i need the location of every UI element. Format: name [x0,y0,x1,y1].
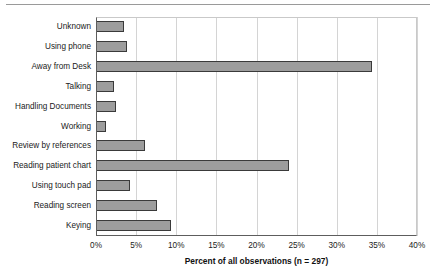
bar-keying [96,220,171,231]
x-axis-title: Percent of all observations (n = 297) [96,256,417,266]
plot-area [96,17,417,236]
bar-reading-screen [96,200,157,211]
xtick-label-0: 0% [90,240,102,251]
bar-away-from-desk [96,61,372,72]
category-label-unknown: Unknown [57,20,91,34]
xtick-label-25: 25% [288,240,304,251]
xtick-label-20: 20% [248,240,264,251]
bar-row [96,17,417,37]
bar-handling-documents [96,101,116,112]
category-label-using-phone: Using phone [45,40,91,54]
xtick-label-35: 35% [369,240,385,251]
bar-row [96,37,417,57]
xtick-label-5: 5% [130,240,142,251]
xtick-label-30: 30% [329,240,345,251]
bar-using-phone [96,41,127,52]
category-label-using-touch-pad: Using touch pad [32,179,91,193]
bar-unknown [96,21,124,32]
bar-row [96,97,417,117]
bar-row [96,136,417,156]
bar-row [96,57,417,77]
bar-row [96,156,417,176]
bar-row [96,196,417,216]
bar-working [96,121,106,132]
bar-talking [96,81,114,92]
xtick-label-15: 15% [208,240,224,251]
xtick-label-10: 10% [168,240,184,251]
category-label-keying: Keying [66,219,91,233]
bar-using-touch-pad [96,180,130,191]
category-label-talking: Talking [66,80,92,94]
xtick-label-40: 40% [409,240,425,251]
category-label-away-from-desk: Away from Desk [32,60,91,74]
top-divider-rule [6,4,430,5]
chart-figure: UnknownUsing phoneAway from DeskTalkingH… [0,0,434,274]
bar-review-by-references [96,140,145,151]
bar-reading-patient-chart [96,160,289,171]
bar-row [96,77,417,97]
category-label-working: Working [61,120,91,134]
category-label-review-by-references: Review by references [12,139,91,153]
category-label-reading-patient-chart: Reading patient chart [13,159,91,173]
category-label-reading-screen: Reading screen [34,199,91,213]
bar-row [96,216,417,236]
bar-row [96,176,417,196]
bar-row [96,117,417,137]
category-label-handling-documents: Handling Documents [15,100,91,114]
gridline-40 [417,17,418,236]
